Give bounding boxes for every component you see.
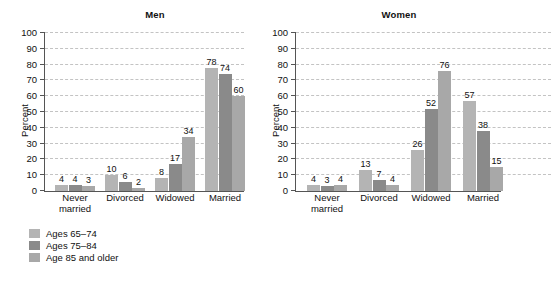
- bar-value-label: 2: [136, 178, 141, 187]
- legend-swatch: [29, 229, 40, 238]
- bar: 17: [169, 164, 182, 191]
- y-axis-tick-label: 80: [262, 60, 288, 70]
- bar-value-label: 13: [360, 160, 370, 169]
- y-axis-tick: [291, 190, 295, 191]
- legend-swatch: [29, 253, 40, 262]
- y-axis-tick-label: 70: [11, 75, 37, 85]
- y-axis-tick: [291, 64, 295, 65]
- y-axis-tick-label: 60: [11, 91, 37, 101]
- legend-item: Ages 65–74: [29, 228, 118, 239]
- bar-value-label: 3: [86, 176, 91, 185]
- bar: 3: [82, 186, 95, 191]
- bar-group: 265276: [411, 33, 451, 191]
- y-axis-tick: [40, 174, 44, 175]
- bar: 38: [477, 131, 490, 191]
- y-axis-tick: [40, 127, 44, 128]
- y-axis-tick-label: 50: [11, 107, 37, 117]
- bar: 10: [105, 175, 118, 191]
- y-axis-tick-label: 40: [11, 123, 37, 133]
- y-axis-tick-label: 20: [262, 154, 288, 164]
- bar-value-label: 52: [426, 99, 436, 108]
- y-axis-tick-label: 0: [11, 186, 37, 196]
- y-axis-tick-label: 20: [11, 154, 37, 164]
- y-axis-tick-label: 100: [11, 28, 37, 38]
- bar-value-label: 10: [106, 165, 116, 174]
- legend-label: Ages 65–74: [46, 228, 97, 239]
- bar-value-label: 7: [376, 170, 381, 179]
- bar-value-label: 76: [439, 61, 449, 70]
- bar: 4: [69, 185, 82, 191]
- y-axis-tick: [40, 143, 44, 144]
- y-axis-tick-label: 100: [262, 28, 288, 38]
- y-axis-tick: [291, 32, 295, 33]
- y-axis-tick-label: 70: [262, 75, 288, 85]
- bar-value-label: 4: [72, 175, 77, 184]
- legend-label: Age 85 and older: [46, 252, 118, 263]
- y-axis-tick: [291, 158, 295, 159]
- y-axis-tick: [291, 127, 295, 128]
- bar-value-label: 26: [412, 140, 422, 149]
- bar: 4: [307, 185, 320, 191]
- y-axis-tick-label: 30: [11, 139, 37, 149]
- bar-group: 787460: [205, 33, 245, 191]
- bar: 76: [438, 71, 451, 191]
- legend-label: Ages 75–84: [46, 240, 97, 251]
- bar-group: 443: [55, 33, 95, 191]
- bar-group: 81734: [155, 33, 195, 191]
- bar-value-label: 4: [338, 175, 343, 184]
- bar: 60: [232, 96, 245, 191]
- bar-value-label: 57: [464, 91, 474, 100]
- y-axis-tick: [40, 190, 44, 191]
- legend-swatch: [29, 241, 40, 250]
- chart-title-men: Men: [112, 9, 198, 20]
- bar-value-label: 3: [324, 176, 329, 185]
- y-axis-tick: [291, 48, 295, 49]
- bar: 15: [490, 167, 503, 191]
- chart-panel-women: Women Percent 0102030405060708090100 434…: [252, 0, 503, 284]
- bar-value-label: 60: [233, 86, 243, 95]
- bar-group: 1374: [359, 33, 399, 191]
- bar-value-label: 15: [491, 157, 501, 166]
- bar: 4: [334, 185, 347, 191]
- bar: 13: [359, 170, 372, 191]
- bar: 52: [425, 109, 438, 191]
- bar-value-label: 6: [122, 172, 127, 181]
- bar: 8: [155, 178, 168, 191]
- y-axis-tick-label: 80: [11, 60, 37, 70]
- category-label: Married: [449, 193, 517, 204]
- y-axis-tick-label: 50: [262, 107, 288, 117]
- y-axis-line-men: [44, 32, 45, 192]
- plot-area-men: Percent 0102030405060708090100 443106281…: [44, 33, 240, 191]
- bar: 34: [182, 137, 195, 191]
- y-axis-tick: [40, 32, 44, 33]
- bar: 26: [411, 150, 424, 191]
- bar: 7: [373, 180, 386, 191]
- bar-value-label: 4: [59, 175, 64, 184]
- bar: 6: [119, 182, 132, 191]
- bar: 4: [386, 185, 399, 191]
- category-label: Married: [191, 193, 259, 204]
- legend-item: Age 85 and older: [29, 252, 118, 263]
- y-axis-tick-label: 30: [262, 139, 288, 149]
- bar-value-label: 8: [159, 168, 164, 177]
- y-axis-tick: [291, 79, 295, 80]
- y-axis-tick-label: 10: [262, 170, 288, 180]
- bar-value-label: 38: [478, 121, 488, 130]
- y-axis-tick: [40, 95, 44, 96]
- bar: 2: [132, 188, 145, 191]
- bar-group: 1062: [105, 33, 145, 191]
- y-axis-tick-label: 60: [262, 91, 288, 101]
- bar-value-label: 4: [311, 175, 316, 184]
- y-axis-tick: [40, 64, 44, 65]
- legend-item: Ages 75–84: [29, 240, 118, 251]
- y-axis-tick: [291, 111, 295, 112]
- chart-legend: Ages 65–74Ages 75–84Age 85 and older: [29, 228, 118, 264]
- bar: 3: [321, 186, 334, 191]
- bar-value-label: 17: [170, 154, 180, 163]
- y-axis-tick-label: 90: [262, 44, 288, 54]
- y-axis-tick: [40, 48, 44, 49]
- bar-value-label: 34: [183, 127, 193, 136]
- y-axis-tick: [291, 95, 295, 96]
- y-axis-tick-label: 40: [262, 123, 288, 133]
